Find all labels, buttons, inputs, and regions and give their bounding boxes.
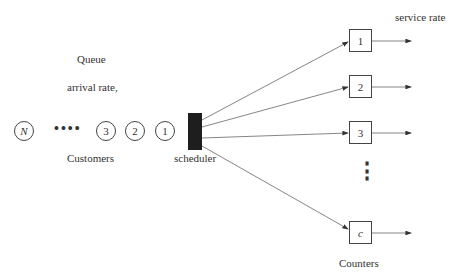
counter-2: 2 (349, 75, 372, 98)
customer-n: N (14, 121, 34, 141)
connection-arrows (0, 0, 459, 280)
scheduler-label: scheduler (174, 152, 216, 164)
counter-3: 3 (349, 121, 372, 144)
customer-3: 3 (96, 121, 116, 141)
queue-label: Queue (77, 53, 106, 65)
counter-1: 1 (349, 29, 372, 52)
counters-label: Counters (339, 257, 379, 269)
scheduler-block (188, 113, 202, 150)
customers-label: Customers (67, 152, 114, 164)
service-rate-label: service rate (395, 11, 445, 23)
counters-ellipsis: ⋮ (356, 160, 380, 182)
arrival-rate-label: arrival rate, (67, 81, 118, 93)
queue-ellipsis: •••• (54, 121, 82, 137)
counter-c: c (349, 221, 372, 244)
customer-1: 1 (155, 121, 175, 141)
customer-2: 2 (125, 121, 145, 141)
